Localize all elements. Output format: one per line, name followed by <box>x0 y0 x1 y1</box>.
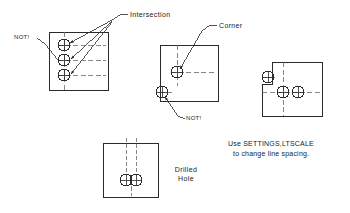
panel-drilled-hole-outline <box>103 143 158 197</box>
corner-leader-line <box>180 31 202 69</box>
ltscale-hint-line-2: to change line spacing. <box>233 149 309 159</box>
panel-drilled-hidden-lines <box>126 138 136 176</box>
panel-corner-centerlines <box>160 45 216 92</box>
corner-label-shoulder <box>202 25 217 31</box>
panel-drilled-hole-crosshairs <box>120 174 142 186</box>
label-not-left: NOT! <box>14 34 30 40</box>
technical-drawing-canvas: Intersection Corner NOT! NOT! Drilled Ho… <box>0 0 350 213</box>
label-drilled: Drilled <box>166 165 206 174</box>
panel-notched-centerlines <box>262 62 320 116</box>
label-intersection: Intersection <box>130 10 170 19</box>
ltscale-hint-line-1: Use SETTINGS,LTSCALE <box>228 139 314 149</box>
not-middle-leader-line <box>165 97 178 116</box>
intersection-label-shoulder <box>112 14 128 20</box>
panel-intersection-hole-crosshairs <box>58 39 70 81</box>
not-middle-label-shoulder <box>178 116 185 119</box>
panel-notched-outline <box>262 62 322 116</box>
intersection-leader-lines <box>70 20 112 74</box>
label-corner: Corner <box>219 21 243 30</box>
label-hole: Hole <box>166 174 206 183</box>
not-left-leader-line <box>37 38 58 60</box>
label-not-middle: NOT! <box>186 115 202 121</box>
